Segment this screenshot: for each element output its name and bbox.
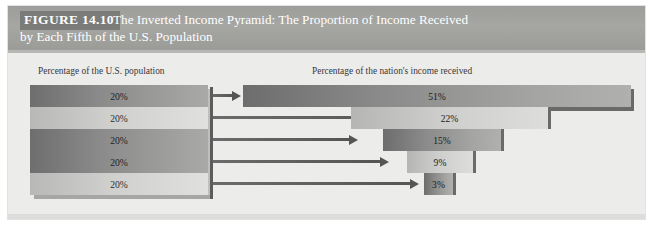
income-bar-pyramid: 51% 22% 15% 9% 3%	[0, 85, 651, 197]
step-shadow-seg-1h	[547, 107, 634, 111]
income-bar-2: 22%	[351, 107, 548, 129]
income-bar-5-label: 3%	[424, 179, 453, 190]
income-bar-3: 15%	[383, 129, 501, 151]
income-bar-4: 9%	[407, 151, 473, 173]
right-column-heading: Percentage of the nation's income receiv…	[312, 66, 472, 76]
income-bar-2-label: 22%	[351, 113, 548, 124]
income-bar-4-label: 9%	[407, 157, 473, 168]
income-bar-1: 51%	[243, 85, 631, 107]
income-bar-1-label: 51%	[243, 91, 631, 102]
left-column-heading: Percentage of the U.S. population	[38, 66, 165, 76]
income-bar-3-label: 15%	[383, 135, 501, 146]
figure-container: FIGURE 14.10 The Inverted Income Pyramid…	[0, 0, 651, 232]
figure-header-band: FIGURE 14.10 The Inverted Income Pyramid…	[8, 6, 645, 50]
figure-title-line-1: The Inverted Income Pyramid: The Proport…	[113, 11, 633, 28]
income-bar-5: 3%	[424, 173, 453, 195]
page-bottom-edge	[8, 214, 645, 219]
figure-title-line-2: by Each Fifth of the U.S. Population	[20, 28, 620, 45]
